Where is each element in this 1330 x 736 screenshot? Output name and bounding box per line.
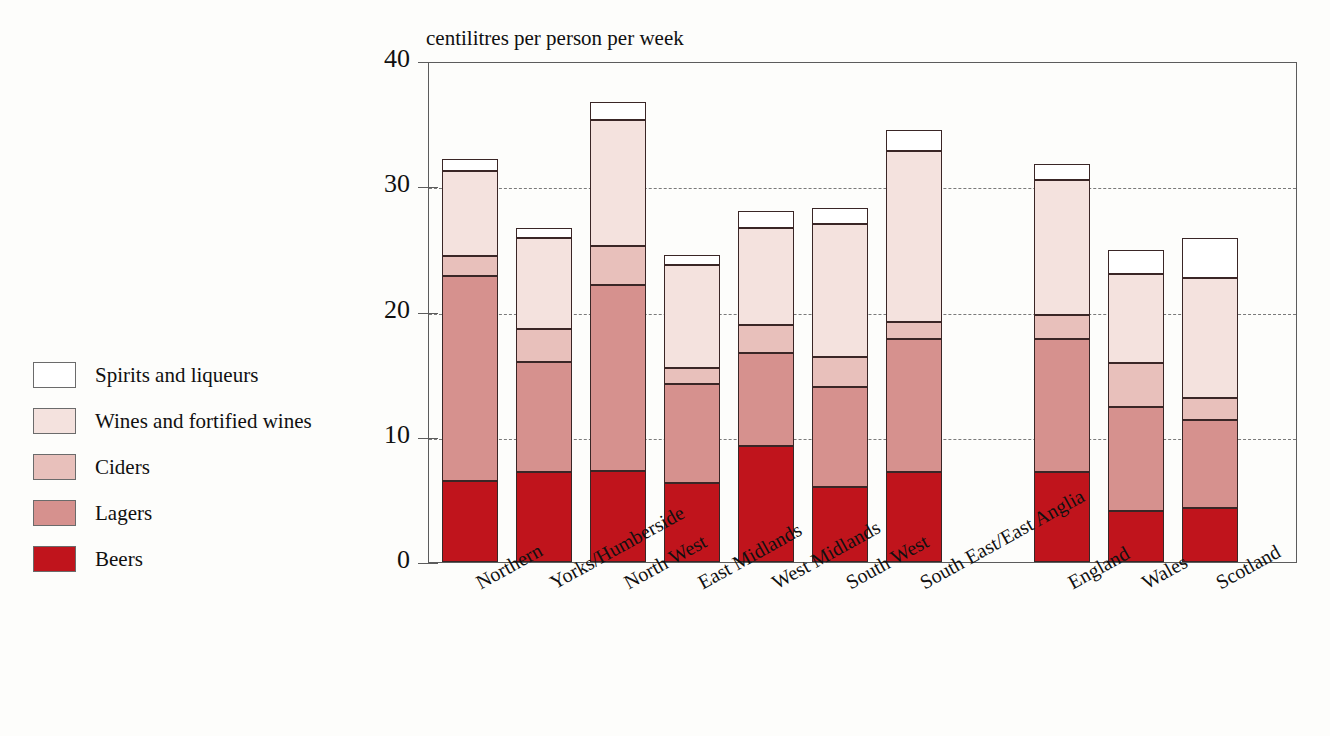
- bar-segment[interactable]: [738, 325, 794, 353]
- bar-segment[interactable]: [738, 211, 794, 227]
- bar-segment[interactable]: [812, 357, 868, 387]
- legend-swatch-icon: [33, 408, 76, 434]
- bar-stack[interactable]: [1182, 61, 1238, 562]
- bar-segment[interactable]: [812, 208, 868, 224]
- y-axis-tick-mark: [418, 563, 438, 564]
- bar-segment[interactable]: [812, 387, 868, 487]
- bar-segment[interactable]: [1108, 250, 1164, 274]
- bar-segment[interactable]: [590, 246, 646, 285]
- legend-item-label: Ciders: [95, 455, 150, 480]
- axis-title: centilitres per person per week: [426, 26, 684, 51]
- bar-segment[interactable]: [1108, 363, 1164, 407]
- legend-swatch-icon: [33, 500, 76, 526]
- bar-segment[interactable]: [1182, 508, 1238, 562]
- bar-segment[interactable]: [1108, 274, 1164, 363]
- legend-item-label: Lagers: [95, 501, 152, 526]
- bar-segment[interactable]: [886, 130, 942, 151]
- bar-segment[interactable]: [1182, 238, 1238, 278]
- legend-item-label: Wines and fortified wines: [95, 409, 312, 434]
- bar-segment[interactable]: [1034, 180, 1090, 315]
- plot-area: [428, 62, 1297, 563]
- y-axis-tick-label: 40: [350, 44, 410, 74]
- bar-segment[interactable]: [812, 224, 868, 357]
- bar-stack[interactable]: [1108, 61, 1164, 562]
- bar-stack[interactable]: [590, 61, 646, 562]
- legend-item[interactable]: Beers: [33, 536, 363, 582]
- bar-segment[interactable]: [664, 384, 720, 483]
- bar-segment[interactable]: [738, 228, 794, 326]
- bar-stack[interactable]: [516, 61, 572, 562]
- bar-stack[interactable]: [442, 61, 498, 562]
- bar-segment[interactable]: [738, 353, 794, 446]
- bar-stack[interactable]: [886, 61, 942, 562]
- bar-segment[interactable]: [516, 228, 572, 238]
- bar-segment[interactable]: [590, 102, 646, 120]
- bar-segment[interactable]: [590, 120, 646, 247]
- bar-segment[interactable]: [442, 256, 498, 276]
- legend-item[interactable]: Wines and fortified wines: [33, 398, 363, 444]
- bar-segment[interactable]: [886, 339, 942, 472]
- legend-item-label: Spirits and liqueurs: [95, 363, 258, 388]
- y-axis-tick-label: 20: [350, 295, 410, 325]
- legend-item[interactable]: Spirits and liqueurs: [33, 352, 363, 398]
- bar-segment[interactable]: [1034, 339, 1090, 472]
- legend-item[interactable]: Ciders: [33, 444, 363, 490]
- bar-segment[interactable]: [1034, 164, 1090, 180]
- legend-swatch-icon: [33, 454, 76, 480]
- y-axis-tick-label: 10: [350, 420, 410, 450]
- bar-stack[interactable]: [1034, 61, 1090, 562]
- bar-stack[interactable]: [738, 61, 794, 562]
- chart-page: Spirits and liqueursWines and fortified …: [0, 0, 1330, 736]
- bar-segment[interactable]: [442, 159, 498, 172]
- bar-segment[interactable]: [442, 171, 498, 256]
- bar-segment[interactable]: [516, 362, 572, 472]
- bar-segment[interactable]: [1034, 315, 1090, 339]
- y-axis-tick-label: 30: [350, 169, 410, 199]
- bar-stack[interactable]: [812, 61, 868, 562]
- bar-segment[interactable]: [664, 368, 720, 384]
- bar-segment[interactable]: [516, 238, 572, 329]
- bar-segment[interactable]: [886, 151, 942, 321]
- bar-segment[interactable]: [664, 255, 720, 265]
- bar-segment[interactable]: [516, 329, 572, 362]
- bar-stack[interactable]: [664, 61, 720, 562]
- legend-item-label: Beers: [95, 547, 143, 572]
- bar-segment[interactable]: [1182, 278, 1238, 398]
- bar-segment[interactable]: [1182, 398, 1238, 421]
- y-axis-tick-label: 0: [350, 545, 410, 575]
- chart-legend: Spirits and liqueursWines and fortified …: [33, 352, 363, 582]
- bar-segment[interactable]: [442, 276, 498, 480]
- legend-item[interactable]: Lagers: [33, 490, 363, 536]
- bar-segment[interactable]: [590, 285, 646, 470]
- legend-swatch-icon: [33, 362, 76, 388]
- bar-segment[interactable]: [1108, 407, 1164, 511]
- legend-swatch-icon: [33, 546, 76, 572]
- bar-segment[interactable]: [664, 265, 720, 368]
- bar-segment[interactable]: [442, 481, 498, 562]
- bar-segment[interactable]: [886, 322, 942, 340]
- bar-segment[interactable]: [1182, 420, 1238, 508]
